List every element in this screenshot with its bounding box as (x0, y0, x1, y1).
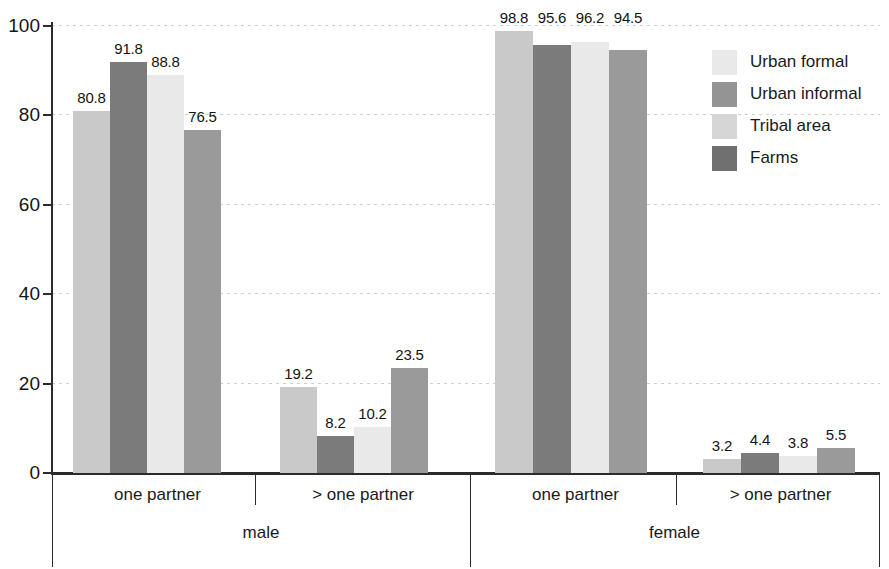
bar-value: 94.5 (604, 9, 652, 26)
group-separator-center (470, 474, 471, 567)
category-separator-male (255, 474, 256, 505)
bar-male-multi-tribal-area (354, 427, 391, 473)
bar-value: 10.2 (349, 405, 396, 422)
y-tick-40 (43, 293, 53, 295)
bar-value: 5.5 (812, 426, 860, 443)
y-axis-label-40: 40 (0, 283, 40, 305)
y-axis-line (51, 22, 53, 475)
y-axis-label-0: 0 (0, 462, 40, 484)
bar-female-multi-tribal-area (779, 456, 817, 473)
bar-female-one-farms (609, 50, 647, 473)
category-label-female-one: one partner (488, 485, 663, 505)
category-label-male-one: one partner (70, 485, 245, 505)
y-axis-label-20: 20 (0, 373, 40, 395)
category-label-female-multi: > one partner (688, 485, 873, 505)
legend-label: Urban formal (750, 50, 848, 74)
bar-male-multi-farms (391, 368, 428, 473)
bar-female-multi-farms (817, 448, 855, 473)
bar-female-multi-urban-formal (703, 459, 741, 473)
legend-swatch-urban-formal (712, 50, 737, 75)
bar-male-one-urban-formal (73, 111, 110, 473)
legend-swatch-tribal-area (712, 114, 737, 139)
bar-value: 88.8 (142, 53, 189, 70)
legend-swatch-urban-informal (712, 82, 737, 107)
y-tick-100 (43, 25, 53, 27)
legend-label: Farms (750, 146, 798, 170)
bar-female-one-urban-informal (533, 45, 571, 473)
bar-male-one-farms (184, 130, 221, 473)
bar-value: 80.8 (68, 89, 115, 106)
bar-male-one-urban-informal (110, 62, 147, 473)
bar-chart: 100 80 60 40 20 0 80.8 91.8 88.8 76.5 19… (0, 0, 889, 569)
bar-female-multi-urban-informal (741, 453, 779, 473)
bar-male-one-tribal-area (147, 75, 184, 473)
gridline-100 (52, 25, 880, 26)
y-axis-label-100: 100 (0, 15, 40, 37)
bar-value: 19.2 (275, 365, 322, 382)
y-axis-label-80: 80 (0, 104, 40, 126)
group-label-male: male (52, 523, 470, 543)
bar-male-multi-urban-informal (317, 436, 354, 473)
legend-label: Tribal area (750, 114, 831, 138)
group-separator-left (52, 474, 53, 567)
y-tick-20 (43, 383, 53, 385)
group-separator-right (879, 474, 880, 567)
bar-value: 76.5 (179, 108, 226, 125)
category-label-male-multi: > one partner (268, 485, 458, 505)
y-tick-80 (43, 114, 53, 116)
bar-female-one-tribal-area (571, 42, 609, 473)
category-separator-female (676, 474, 677, 505)
bar-female-one-urban-formal (495, 31, 533, 473)
group-label-female: female (470, 523, 879, 543)
legend-swatch-farms (712, 146, 737, 171)
y-tick-60 (43, 204, 53, 206)
y-axis-label-60: 60 (0, 194, 40, 216)
legend-label: Urban informal (750, 82, 862, 106)
bar-value: 23.5 (386, 346, 433, 363)
